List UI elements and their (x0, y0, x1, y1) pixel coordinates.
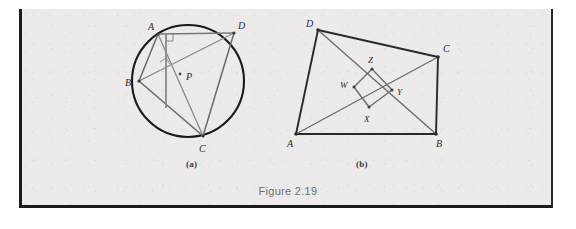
segment-WZ (354, 69, 372, 87)
vertex-dot-Y (391, 89, 394, 92)
vertex-label-Z: Z (368, 55, 374, 65)
vertex-label-B: B (436, 138, 442, 149)
vertex-dot-W (353, 86, 356, 89)
figure-sublabel-a: (a) (186, 159, 197, 169)
figure-sublabel-b: (b) (356, 159, 368, 169)
vertex-label-Y: Y (397, 87, 403, 97)
segment-CD (318, 30, 438, 57)
vertex-label-A: A (286, 138, 294, 149)
vertex-dot-A (294, 132, 298, 136)
segment-DA (296, 30, 318, 134)
vertex-dot-B (434, 132, 438, 136)
figure-caption: Figure 2.19 (0, 185, 576, 197)
vertex-label-C: C (443, 43, 450, 54)
vertex-label-W: W (340, 80, 349, 90)
segment-XW (354, 87, 369, 107)
vertex-label-X: X (363, 114, 370, 124)
vertex-dot-D (316, 28, 320, 32)
vertex-dot-C (436, 55, 440, 59)
vertex-dot-Z (371, 68, 374, 71)
segment-BC (436, 57, 438, 134)
diagonal-DB (318, 30, 436, 134)
vertex-label-D: D (305, 18, 314, 29)
figure-page: A B C D P (0, 0, 576, 229)
vertex-dot-X (368, 106, 371, 109)
